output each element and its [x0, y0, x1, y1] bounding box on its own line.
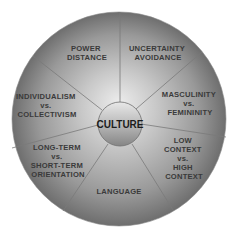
segment-uncertainty-avoidance: UNCERTAINTY AVOIDANCE: [129, 44, 187, 62]
segment-language: LANGUAGE: [96, 187, 141, 196]
culture-wheel-diagram: POWER DISTANCE UNCERTAINTY AVOIDANCE MAS…: [0, 0, 236, 238]
center-label: CULTURE: [96, 119, 143, 130]
segment-power-distance: POWER DISTANCE: [67, 44, 107, 62]
segment-long-short-term: LONG-TERM vs. SHORT-TERM ORIENTATION: [31, 143, 86, 179]
